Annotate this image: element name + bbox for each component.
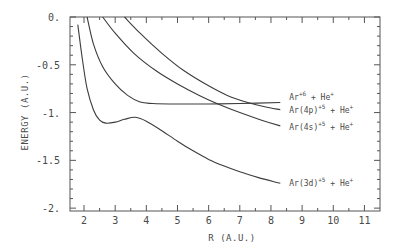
x-tick-label: 10 (327, 215, 339, 226)
potential-energy-chart: 234567891011 0.-0.5-1.-1.5-2. Ar+6 + He+… (0, 0, 399, 251)
x-tick-label: 9 (299, 215, 305, 226)
curve-label: Ar(4p)+5 + He+ (289, 103, 353, 115)
x-tick-label: 6 (206, 215, 212, 226)
x-tick-label: 5 (174, 215, 180, 226)
y-axis-label: ENERGY (A.U.) (20, 74, 30, 151)
curve-label: Ar(4s)+5 + He+ (289, 120, 353, 132)
y-tick-label: -1.5 (36, 155, 60, 166)
x-tick-label: 3 (112, 215, 118, 226)
x-axis-ticks: 234567891011 (81, 17, 370, 226)
curve-label: Ar+6 + He+ (289, 90, 334, 102)
x-tick-label: 8 (268, 215, 274, 226)
y-tick-label: -1. (42, 108, 60, 119)
x-axis-label: R (A.U.) (208, 233, 255, 243)
x-tick-label: 2 (81, 215, 87, 226)
y-tick-label: -0.5 (36, 60, 60, 71)
y-tick-label: 0. (48, 12, 60, 23)
curve-label: Ar(3d)+5 + He+ (289, 176, 353, 188)
x-tick-label: 11 (358, 215, 370, 226)
x-tick-label: 7 (237, 215, 243, 226)
curve-labels: Ar+6 + He+Ar(4p)+5 + He+Ar(4s)+5 + He+Ar… (289, 90, 353, 189)
x-tick-label: 4 (143, 215, 149, 226)
curve-0 (87, 17, 280, 104)
y-tick-label: -2. (42, 203, 60, 214)
curve-1 (125, 17, 281, 110)
curves (78, 17, 280, 183)
curve-2 (103, 17, 281, 126)
